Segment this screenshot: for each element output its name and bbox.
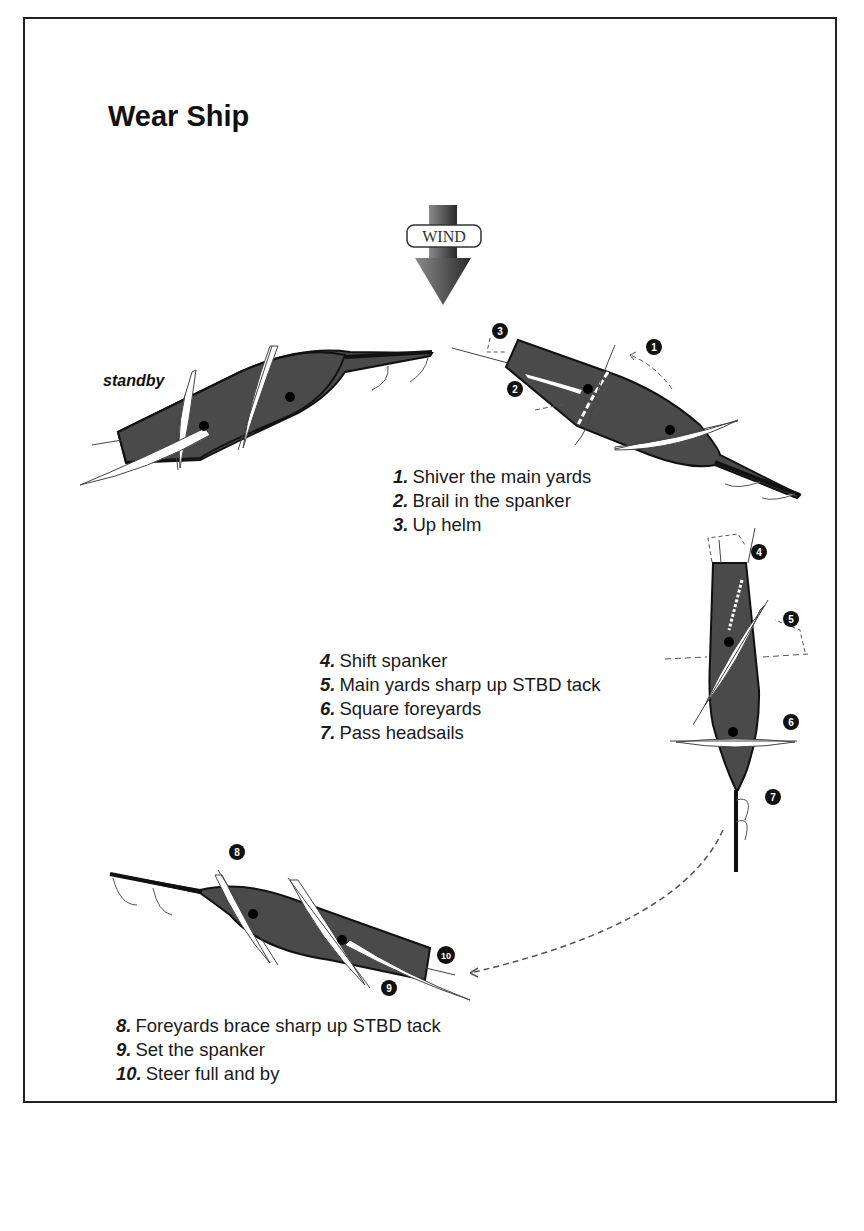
step-list-3: 8.Foreyards brace sharp up STBD tack 9.S… [116, 1014, 441, 1086]
step-item: 6.Square foreyards [320, 697, 601, 721]
step-item: 9.Set the spanker [116, 1038, 441, 1062]
step-item: 2.Brail in the spanker [393, 489, 591, 513]
step-item: 3.Up helm [393, 513, 591, 537]
ship-step-4-7 [665, 528, 808, 872]
marker-6: 6 [783, 714, 799, 730]
marker-5: 5 [783, 611, 799, 627]
wind-arrow-icon: WIND [407, 205, 481, 305]
marker-7: 7 [765, 789, 781, 805]
marker-3: 3 [492, 323, 508, 339]
transition-arrow [470, 830, 723, 973]
step-item: 5.Main yards sharp up STBD tack [320, 673, 601, 697]
step-item: 4.Shift spanker [320, 649, 601, 673]
svg-text:1: 1 [651, 342, 657, 353]
svg-text:9: 9 [386, 983, 392, 994]
marker-4: 4 [751, 544, 767, 560]
svg-text:7: 7 [770, 792, 776, 803]
svg-text:2: 2 [512, 384, 518, 395]
step-item: 1.Shiver the main yards [393, 465, 591, 489]
svg-text:6: 6 [788, 717, 794, 728]
svg-text:3: 3 [497, 326, 503, 337]
svg-text:8: 8 [234, 847, 240, 858]
marker-10: 10 [437, 946, 455, 964]
step-list-1: 1.Shiver the main yards 2.Brail in the s… [393, 465, 591, 537]
wind-label: WIND [422, 228, 466, 245]
svg-text:5: 5 [788, 614, 794, 625]
step-item: 7.Pass headsails [320, 721, 601, 745]
marker-2: 2 [507, 381, 523, 397]
ship-step-8-10 [110, 870, 470, 1000]
marker-8: 8 [229, 844, 245, 860]
marker-1: 1 [646, 339, 662, 355]
step-list-2: 4.Shift spanker 5.Main yards sharp up ST… [320, 649, 601, 745]
step-item: 8.Foreyards brace sharp up STBD tack [116, 1014, 441, 1038]
step-item: 10.Steer full and by [116, 1062, 441, 1086]
svg-text:10: 10 [441, 951, 451, 961]
ship-standby [80, 346, 432, 485]
marker-9: 9 [381, 980, 397, 996]
svg-text:4: 4 [756, 547, 762, 558]
